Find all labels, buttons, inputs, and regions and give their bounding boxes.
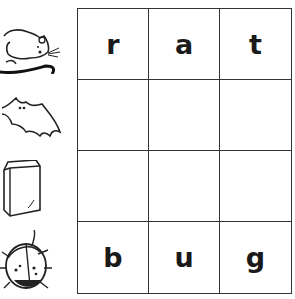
grid-cell[interactable]: r xyxy=(78,9,149,80)
bug-icon xyxy=(0,228,75,296)
bat-icon xyxy=(0,90,75,145)
grid-cell[interactable]: b xyxy=(78,222,149,293)
grid-cell[interactable] xyxy=(220,80,291,151)
grid-cell[interactable]: t xyxy=(220,9,291,80)
grid-cell[interactable]: g xyxy=(220,222,291,293)
grid-cell[interactable]: u xyxy=(149,222,220,293)
grid-cell[interactable] xyxy=(149,151,220,222)
rat-icon xyxy=(0,12,75,74)
grid-cell[interactable] xyxy=(78,151,149,222)
bag-icon xyxy=(0,160,75,220)
grid-cell[interactable] xyxy=(78,80,149,151)
grid-cell[interactable]: a xyxy=(149,9,220,80)
grid-cell[interactable] xyxy=(220,151,291,222)
grid-cell[interactable] xyxy=(149,80,220,151)
letter-grid: r a t b u g xyxy=(77,8,292,294)
